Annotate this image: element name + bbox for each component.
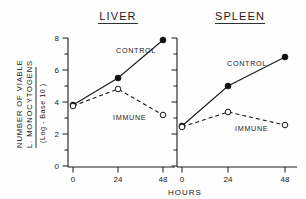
liver-y-major-ticks xyxy=(63,38,69,166)
liver-y-tick-4: 4 xyxy=(55,98,60,107)
liver-y-tick-6: 6 xyxy=(55,66,60,75)
panel-title-liver: LIVER xyxy=(99,10,136,22)
panel-spleen: SPLEEN xyxy=(172,10,298,184)
panel-title-spleen: SPLEEN xyxy=(215,10,265,22)
spleen-immune-label: IMMUNE xyxy=(235,124,268,133)
x-axis-title: HOURS xyxy=(168,188,202,197)
liver-x-tick-24: 24 xyxy=(114,175,123,184)
spleen-x-tick-24: 24 xyxy=(224,175,233,184)
liver-x-tick-0: 0 xyxy=(71,175,76,184)
spleen-x-tick-0: 0 xyxy=(180,175,185,184)
liver-y-tick-0: 0 xyxy=(55,162,60,171)
spleen-immune-markers xyxy=(179,109,288,130)
liver-immune-label: IMMUNE xyxy=(113,113,146,122)
y-axis-label-line3: (Log - Base 10 ) xyxy=(38,83,47,143)
y-axis-label-line2: L. MONOCYTOGENS xyxy=(25,60,34,148)
y-axis-label-line1: NUMBER OF VIABLE xyxy=(15,59,24,148)
spleen-x-ticks xyxy=(182,167,285,173)
liver-x-tick-48: 48 xyxy=(159,175,168,184)
spleen-control-label: CONTROL xyxy=(227,59,267,68)
spleen-x-tick-48: 48 xyxy=(281,175,290,184)
liver-control-label: CONTROL xyxy=(116,46,156,55)
liver-y-tick-8: 8 xyxy=(55,34,60,43)
spleen-y-major-ticks xyxy=(172,38,178,166)
liver-y-tick-2: 2 xyxy=(55,130,60,139)
chart-canvas: NUMBER OF VIABLE L. MONOCYTOGENS (Log - … xyxy=(0,0,306,199)
liver-y-tick-labels: 0 2 4 6 8 xyxy=(55,34,60,171)
spleen-immune-line xyxy=(182,112,285,127)
panel-liver: LIVER 0 2 xyxy=(55,10,175,184)
spleen-x-tick-labels: 0 24 48 xyxy=(180,175,290,184)
liver-x-tick-labels: 0 24 48 xyxy=(71,175,168,184)
liver-x-ticks xyxy=(73,167,163,173)
figure-container: NUMBER OF VIABLE L. MONOCYTOGENS (Log - … xyxy=(0,0,306,199)
y-axis-label-group: NUMBER OF VIABLE L. MONOCYTOGENS (Log - … xyxy=(15,59,47,148)
liver-immune-line xyxy=(73,89,163,115)
